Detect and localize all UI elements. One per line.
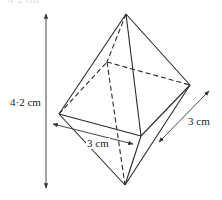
edge-right-bottom — [125, 85, 190, 185]
front-width-label: 3 cm — [86, 138, 110, 149]
edge-top-front — [126, 14, 141, 136]
edge-left-back — [59, 62, 107, 114]
visible-edges — [59, 14, 190, 185]
edge-back-bottom — [107, 62, 125, 185]
octahedron-diagram: 4·2 cm — [0, 0, 222, 200]
side-width-label: 3 cm — [188, 116, 210, 127]
edge-top-right — [126, 14, 190, 85]
edge-left-bottom — [59, 114, 125, 185]
height-label: 4·2 cm — [10, 97, 41, 108]
edge-back-right — [107, 62, 190, 85]
hidden-edges — [59, 14, 190, 185]
edge-left-front — [59, 114, 141, 136]
edge-front-bottom — [125, 136, 141, 185]
edge-front-right — [141, 85, 190, 136]
